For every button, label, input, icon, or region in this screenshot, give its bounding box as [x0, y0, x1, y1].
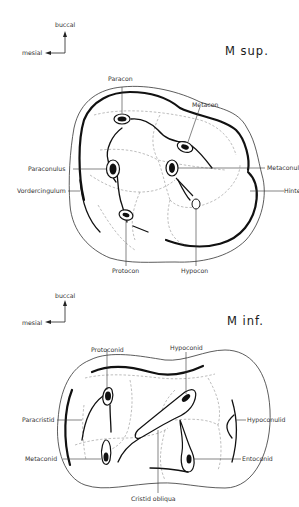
molar-diagram: buccal mesial M sup.	[0, 0, 299, 507]
label-paracon: Paracon	[108, 75, 133, 82]
cusp-hypoconid	[135, 390, 196, 439]
label-metaconid: Metaconid	[25, 455, 57, 462]
cusp-paracon	[114, 114, 130, 124]
label-protoconid: Protoconid	[91, 346, 124, 353]
lower-molar-figure: buccal mesial M inf.	[22, 292, 285, 503]
label-entoconid: Entoconid	[242, 455, 273, 462]
cusp-protocon	[118, 208, 134, 221]
upper-buccal-label: buccal	[55, 21, 75, 28]
arrow-left-icon	[45, 51, 51, 55]
lower-hypoconulid-ridge	[232, 400, 237, 462]
cusp-paraconulus	[107, 160, 120, 178]
cusp-metaconid	[101, 440, 110, 464]
label-vordercingulum: Vordercingulum	[17, 187, 66, 195]
arrow-left-icon	[45, 320, 51, 324]
arrow-up-icon	[63, 31, 67, 37]
lower-buccal-label: buccal	[55, 292, 75, 299]
label-paraconulus: Paraconulus	[28, 165, 65, 172]
lower-mesial-label: mesial	[22, 319, 43, 326]
lower-paracristid-ridge	[65, 390, 72, 465]
cusp-metaconulus	[166, 160, 178, 176]
upper-orientation-compass: buccal mesial	[22, 21, 75, 56]
label-metacon: Metacon	[192, 101, 219, 108]
label-cristid-obliqua: Cristid obliqua	[131, 495, 176, 503]
cusp-protoconid	[103, 388, 113, 406]
lower-molar-title: M inf.	[227, 314, 264, 328]
label-hypocon: Hypocon	[181, 267, 208, 275]
arrow-up-icon	[63, 300, 67, 306]
label-hintercingulum: Hintercingulum	[284, 187, 299, 195]
upper-molar-figure: buccal mesial M sup.	[17, 21, 299, 275]
label-hypoconid: Hypoconid	[170, 344, 203, 352]
upper-molar-title: M sup.	[225, 44, 269, 58]
label-hypoconulid: Hypoconulid	[247, 416, 285, 424]
label-metaconulus: Metaconulus	[267, 164, 299, 171]
label-protocon: Protocon	[112, 267, 139, 274]
lower-orientation-compass: buccal mesial	[22, 292, 75, 326]
upper-mesial-label: mesial	[22, 49, 43, 56]
upper-vordercingulum-arc	[80, 180, 100, 232]
label-paracristid: Paracristid	[22, 416, 55, 423]
lower-cristid-obliqua-ridge	[118, 438, 140, 462]
cusp-entoconid	[180, 420, 194, 472]
